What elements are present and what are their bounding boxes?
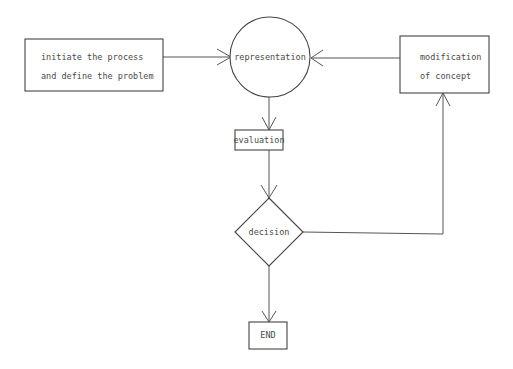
edge-evaluation-to-decision bbox=[261, 150, 277, 198]
node-decision-label: decision bbox=[249, 227, 290, 237]
node-decision: decision bbox=[235, 198, 303, 266]
node-representation: representation bbox=[230, 17, 310, 97]
node-initiate-line-2: and define the problem bbox=[41, 71, 154, 81]
edge-decision-to-end bbox=[262, 266, 276, 322]
node-modification-line-1: modification bbox=[420, 52, 481, 62]
flowchart-diagram: initiate the process and define the prob… bbox=[0, 0, 513, 369]
node-evaluation: evaluation bbox=[233, 130, 284, 150]
edge-representation-to-evaluation bbox=[262, 97, 276, 130]
node-end: END bbox=[249, 322, 287, 349]
node-initiate-process: initiate the process and define the prob… bbox=[25, 39, 163, 91]
node-initiate-line-1: initiate the process bbox=[41, 52, 143, 62]
edge-modification-to-representation bbox=[311, 50, 400, 66]
node-end-label: END bbox=[260, 330, 275, 340]
edge-start-to-representation bbox=[163, 49, 231, 65]
node-representation-label: representation bbox=[234, 52, 306, 62]
node-modification-of-concept: modification of concept bbox=[400, 36, 489, 93]
node-modification-line-2: of concept bbox=[420, 71, 471, 81]
node-evaluation-label: evaluation bbox=[233, 135, 284, 145]
edge-decision-to-modification bbox=[303, 93, 450, 234]
